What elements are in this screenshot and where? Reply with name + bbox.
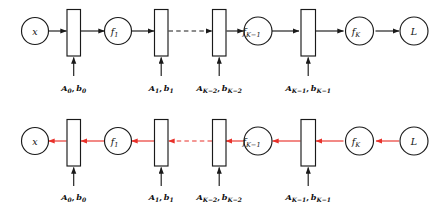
backward-param-label-K-2: AK−2, bK−2 (195, 192, 241, 203)
backward-param-label-0: A0, b0 (60, 192, 87, 203)
backward-param-label-1: A1, b1 (148, 192, 174, 203)
forward-node-x-label: x (32, 26, 38, 37)
forward-layer-box-0 (67, 10, 81, 57)
diagram-canvas: x f1 fK−1 fK L (0, 0, 440, 209)
forward-layer-box-K-1 (301, 10, 316, 57)
backward-layer-box-K-2 (213, 120, 227, 167)
forward-param-label-0: A0, b0 (60, 83, 87, 94)
neural-network-forward-backward-diagram: x f1 fK−1 fK L (0, 0, 440, 209)
forward-param-label-K-2: AK−2, bK−2 (195, 83, 241, 94)
backward-layer-box-K-1 (301, 120, 316, 167)
backward-param-label-K-1: AK−1, bK−1 (284, 192, 330, 203)
backward-layer-box-0 (67, 120, 81, 167)
backward-layer-box-1 (155, 120, 169, 167)
backward-node-x-label: x (32, 136, 38, 147)
backward-node-loss-label: L (410, 136, 417, 147)
forward-param-label-K-1: AK−1, bK−1 (284, 83, 330, 94)
forward-layer-box-K-2 (213, 10, 227, 57)
forward-pass-row: x f1 fK−1 fK L (22, 10, 429, 95)
forward-layer-box-1 (155, 10, 169, 57)
forward-node-loss-label: L (410, 26, 417, 37)
backward-pass-row: x f1 fK−1 fK L (22, 120, 429, 204)
forward-param-label-1: A1, b1 (148, 83, 174, 94)
